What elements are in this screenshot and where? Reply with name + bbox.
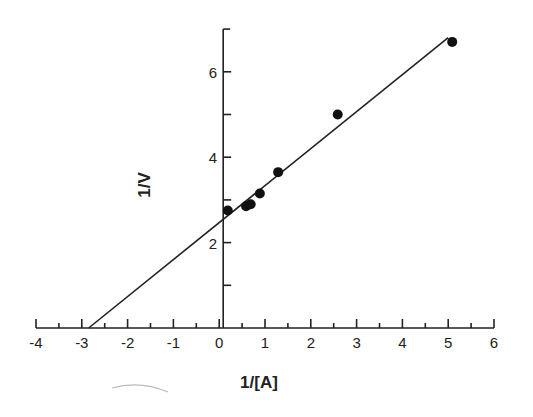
tick-labels: -4-3-2-10123456246 (29, 64, 498, 351)
x-tick-label: 1 (261, 334, 269, 351)
x-axis-label: 1/[A] (240, 373, 278, 392)
y-tick-label: 2 (209, 235, 217, 252)
data-points (223, 37, 457, 216)
data-point (246, 199, 256, 209)
x-tick-label: -3 (75, 334, 88, 351)
x-tick-label: 5 (444, 334, 452, 351)
x-tick-label: 4 (398, 334, 406, 351)
x-tick-label: -2 (121, 334, 134, 351)
data-point (333, 110, 343, 120)
x-tick-label: 0 (215, 334, 223, 351)
x-tick-label: 6 (490, 334, 498, 351)
axes (36, 29, 494, 328)
x-tick-label: 2 (307, 334, 315, 351)
x-tick-label: -1 (167, 334, 180, 351)
y-axis-label: 1/V (135, 172, 154, 198)
data-point (273, 167, 283, 177)
data-point (223, 206, 233, 216)
y-tick-label: 6 (209, 64, 217, 81)
scan-artifact (112, 385, 168, 392)
x-tick-label: 3 (352, 334, 360, 351)
x-tick-label: -4 (29, 334, 42, 351)
lineweaver-burk-plot: -4-3-2-10123456246 1/[A] 1/V (0, 0, 533, 417)
data-point (447, 37, 457, 47)
data-point (255, 188, 265, 198)
y-tick-label: 4 (209, 149, 217, 166)
